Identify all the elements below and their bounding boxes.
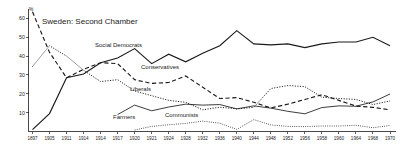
y-tick-label: 30 [19, 72, 25, 78]
x-tick-label: 1960 [334, 136, 345, 141]
x-tick-label: 1940 [232, 136, 243, 141]
series-label-communists: Communists [165, 112, 198, 118]
series-line-communists [135, 120, 390, 130]
y-tick-label: 60 [19, 15, 25, 21]
x-tick-label: 1964 [351, 136, 362, 141]
series-label-liberals: Liberals [130, 86, 151, 92]
x-tick-label: 1958 [317, 136, 328, 141]
x-tick-label: 1952 [283, 136, 294, 141]
y-tick-label: 50 [19, 34, 25, 40]
x-tick-label: 1944 [249, 136, 260, 141]
x-tick-label: 1928 [181, 136, 192, 141]
x-tick-label: 1921 [147, 136, 158, 141]
x-tick-label: 1905 [44, 136, 55, 141]
chart-container: 102030405060 189719051911191419141917192… [0, 0, 403, 149]
y-tick-label: 20 [19, 91, 25, 97]
chart-title: Sweden: Second Chamber [42, 17, 138, 26]
axis-group [29, 9, 397, 132]
x-tick-label: 1932 [198, 136, 209, 141]
series-line-liberals [33, 46, 391, 110]
x-tick-label: 1956 [300, 136, 311, 141]
x-tick-label: 1920 [130, 136, 141, 141]
series-line-social-democrats [33, 31, 391, 130]
x-tick-label: 1968 [368, 136, 379, 141]
y-tick-label: 10 [19, 110, 25, 116]
x-tick-label: 1924 [164, 136, 175, 141]
x-tick-label: 1948 [266, 136, 277, 141]
series-label-farmers: Farmers [113, 114, 135, 120]
series-line-conservatives [33, 12, 391, 110]
y-axis-unit-label: % [29, 6, 34, 12]
x-tick-label: 1914 [78, 136, 89, 141]
x-tick-label: 1914 [95, 136, 106, 141]
x-tick-label: 1897 [27, 136, 38, 141]
series-label-conservatives: Conservatives [141, 64, 179, 70]
x-tick-label: 1911 [62, 136, 72, 141]
x-tick-label: 1936 [215, 136, 226, 141]
series-annotation-group: Social DemocratsConservativesLiberalsFar… [95, 42, 198, 120]
series-group [33, 12, 391, 130]
y-tick-group: 102030405060 [19, 15, 28, 115]
x-tick-group: 1897190519111914191419171920192119241928… [27, 132, 395, 141]
x-tick-label: 1917 [113, 136, 124, 141]
series-label-social-democrats: Social Democrats [95, 42, 142, 48]
y-tick-label: 40 [19, 53, 25, 59]
x-tick-label: 1970 [385, 136, 396, 141]
line-chart: 102030405060 189719051911191419141917192… [0, 0, 403, 149]
